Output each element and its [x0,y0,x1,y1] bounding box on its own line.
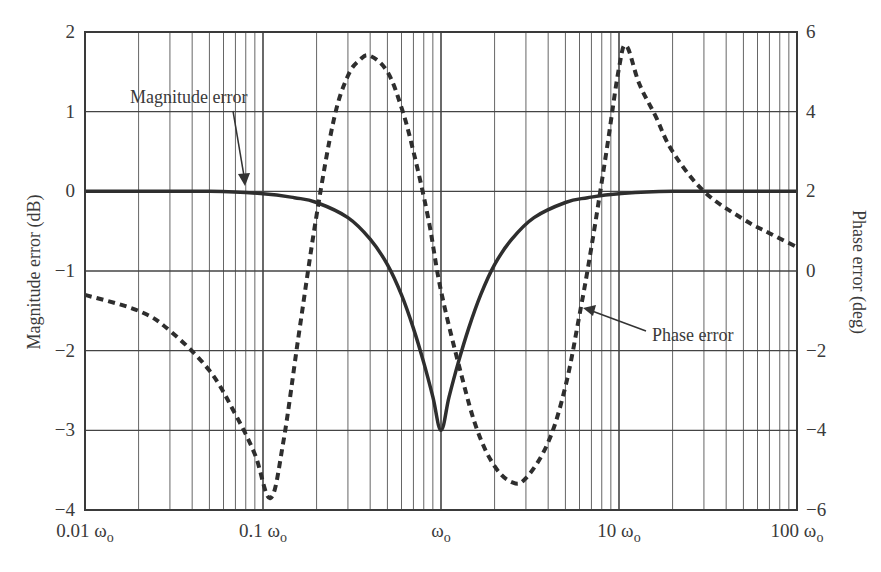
x-tick-label: 0.01 ωo [56,520,114,545]
y-tick-label-right: −6 [806,499,826,520]
y-tick-label-left: −3 [55,419,75,440]
magnitude-arrow-line [233,111,244,176]
phase-error-label: Phase error [652,325,733,345]
x-tick-label: 0.1 ωo [239,520,287,545]
x-tick-label: 10 ωo [597,520,640,545]
phase-arrow-head [583,305,596,316]
x-tick-label: ωo [431,520,451,545]
y-tick-label-right: −4 [806,419,827,440]
y-tick-label-right: −2 [806,340,826,361]
phase-error-annotation: Phase error [583,305,733,345]
y-tick-label-left: 1 [66,101,76,122]
y-axis-label-right: Phase error (deg) [848,210,869,334]
y-tick-label-left: −2 [55,340,75,361]
magnitude-arrow-head [238,173,250,186]
y-tick-label-left: 2 [66,21,76,42]
y-tick-label-left: −1 [55,260,75,281]
y-tick-label-right: 4 [806,101,816,122]
magnitude-error-annotation: Magnitude error [130,87,250,186]
y-tick-label-right: 6 [806,21,816,42]
y-tick-label-left: 0 [66,180,76,201]
y-tick-label-right: 0 [806,260,816,281]
y-tick-label-right: 2 [806,180,816,201]
bode-error-chart: 0.01 ωo0.1 ωoωo10 ωo100 ωo210−1−2−3−4642… [0,0,881,572]
y-tick-label-left: −4 [55,499,76,520]
y-axis-label-left: Magnitude error (dB) [24,195,45,350]
x-tick-label: 100 ωo [771,520,824,545]
magnitude-error-label: Magnitude error [130,87,247,107]
